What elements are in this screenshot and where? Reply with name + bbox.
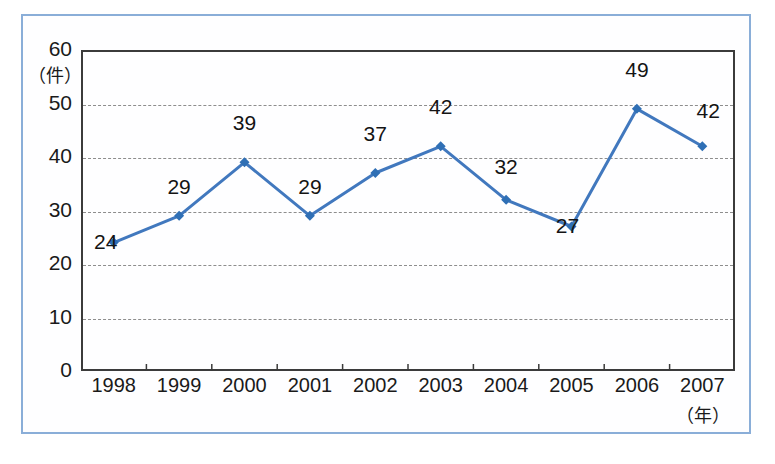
x-tick-label: 1999 [146,374,212,397]
data-value-label: 29 [283,175,337,199]
data-value-label: 39 [218,111,272,135]
x-tick-label: 2005 [539,374,605,397]
data-value-label: 27 [541,214,595,238]
y-tick-label: 20 [28,251,72,275]
caption-text [60,452,480,464]
gridline [83,158,733,159]
data-value-label: 49 [610,58,664,82]
y-tick-label: 0 [28,358,72,382]
y-tick-label: 10 [28,305,72,329]
x-tick-label: 2000 [212,374,278,397]
y-tick-label: 60 [28,37,72,61]
x-tick-label: 2003 [408,374,474,397]
gridline [83,212,733,213]
x-tick-label: 2006 [604,374,670,397]
chart-figure: （件） 0102030405060 24293929374232274942 1… [0,0,775,464]
data-value-label: 42 [414,95,468,119]
x-tick-label: 2001 [277,374,343,397]
gridline [83,265,733,266]
data-value-label: 24 [79,230,133,254]
y-tick-label: 40 [28,144,72,168]
x-tick-label: 2007 [669,374,735,397]
x-tick-label: 2004 [473,374,539,397]
y-tick-label: 50 [28,91,72,115]
plot-area [81,50,735,371]
y-axis-unit-label: （件） [28,61,78,87]
gridline [83,105,733,106]
x-axis-unit-label: （年） [668,401,738,427]
data-value-label: 32 [479,155,533,179]
x-tick-label: 1998 [81,374,147,397]
gridline [83,319,733,320]
data-value-label: 37 [348,122,402,146]
data-value-label: 29 [152,175,206,199]
y-tick-label: 30 [28,198,72,222]
x-tick-label: 2002 [342,374,408,397]
data-value-label: 42 [681,99,735,123]
